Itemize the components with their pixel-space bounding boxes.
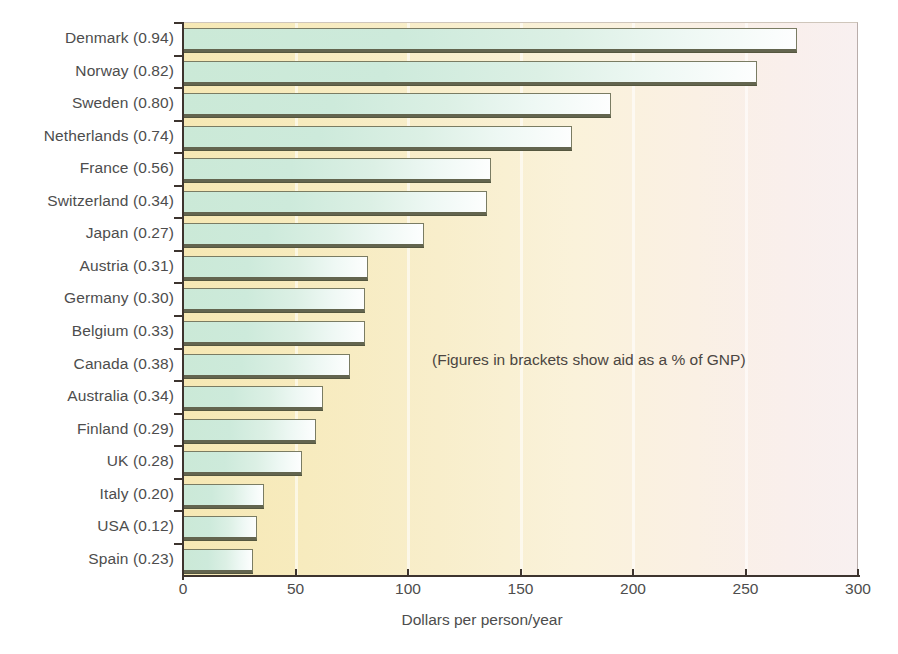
y-tick: [174, 315, 183, 317]
y-axis-label-usa: USA (0.12): [14, 517, 174, 535]
y-tick: [174, 348, 183, 350]
bar-australia: [183, 386, 323, 410]
x-tick-50: [295, 569, 297, 577]
y-tick: [174, 282, 183, 284]
bar-japan: [183, 223, 424, 247]
bar-denmark: [183, 28, 797, 52]
y-axis-label-sweden: Sweden (0.80): [14, 94, 174, 112]
y-tick: [174, 478, 183, 480]
y-axis-label-austria: Austria (0.31): [14, 257, 174, 275]
bar-austria: [183, 256, 368, 280]
bar-italy: [183, 484, 264, 508]
y-axis-label-uk: UK (0.28): [14, 452, 174, 470]
y-axis-label-netherlands: Netherlands (0.74): [14, 127, 174, 145]
y-axis-label-denmark: Denmark (0.94): [14, 29, 174, 47]
bar-sweden: [183, 93, 611, 117]
y-axis-label-japan: Japan (0.27): [14, 224, 174, 242]
x-tick-100: [407, 569, 409, 577]
x-tick-0: [182, 566, 184, 580]
y-axis-labels: Denmark (0.94)Norway (0.82)Sweden (0.80)…: [8, 0, 174, 654]
y-tick: [174, 120, 183, 122]
x-axis-label-0: 0: [179, 580, 188, 598]
y-axis-label-norway: Norway (0.82): [14, 62, 174, 80]
x-axis-label-200: 200: [620, 580, 646, 598]
x-axis-title: Dollars per person/year: [0, 611, 898, 629]
bar-norway: [183, 61, 757, 85]
y-tick: [174, 250, 183, 252]
y-axis-label-germany: Germany (0.30): [14, 289, 174, 307]
bar-finland: [183, 419, 316, 443]
x-axis-label-250: 250: [733, 580, 759, 598]
y-axis-label-italy: Italy (0.20): [14, 485, 174, 503]
plot-area: [183, 22, 858, 575]
bar-belgium: [183, 321, 365, 345]
y-tick: [174, 185, 183, 187]
bar-chart: (Figures in brackets show aid as a % of …: [0, 0, 898, 654]
gridline-250: [745, 23, 748, 575]
x-axis-label-100: 100: [395, 580, 421, 598]
y-tick: [174, 445, 183, 447]
y-tick: [174, 152, 183, 154]
y-axis-line: [182, 22, 184, 576]
x-axis-line: [183, 575, 860, 577]
bar-canada: [183, 354, 350, 378]
bar-uk: [183, 451, 302, 475]
x-tick-250: [745, 569, 747, 577]
y-tick: [174, 510, 183, 512]
y-axis-label-finland: Finland (0.29): [14, 420, 174, 438]
x-axis-label-300: 300: [845, 580, 871, 598]
y-axis-label-belgium: Belgium (0.33): [14, 322, 174, 340]
gridline-200: [632, 23, 635, 575]
bar-france: [183, 158, 491, 182]
y-tick: [174, 543, 183, 545]
y-axis-label-spain: Spain (0.23): [14, 550, 174, 568]
x-axis-label-150: 150: [508, 580, 534, 598]
x-tick-200: [632, 569, 634, 577]
bar-usa: [183, 516, 257, 540]
bar-switzerland: [183, 191, 487, 215]
y-tick: [174, 55, 183, 57]
x-tick-300: [857, 569, 859, 577]
bar-germany: [183, 288, 365, 312]
chart-annotation: (Figures in brackets show aid as a % of …: [432, 351, 746, 369]
x-axis-label-50: 50: [287, 580, 304, 598]
y-tick: [174, 413, 183, 415]
y-tick: [174, 217, 183, 219]
x-tick-150: [520, 569, 522, 577]
y-axis-label-australia: Australia (0.34): [14, 387, 174, 405]
y-tick: [174, 87, 183, 89]
x-axis-title-text: Dollars per person/year: [401, 611, 562, 629]
bar-netherlands: [183, 126, 572, 150]
y-tick: [174, 380, 183, 382]
y-axis-label-switzerland: Switzerland (0.34): [14, 192, 174, 210]
y-tick: [174, 22, 183, 24]
y-axis-label-france: France (0.56): [14, 159, 174, 177]
y-axis-label-canada: Canada (0.38): [14, 355, 174, 373]
bar-spain: [183, 549, 253, 573]
